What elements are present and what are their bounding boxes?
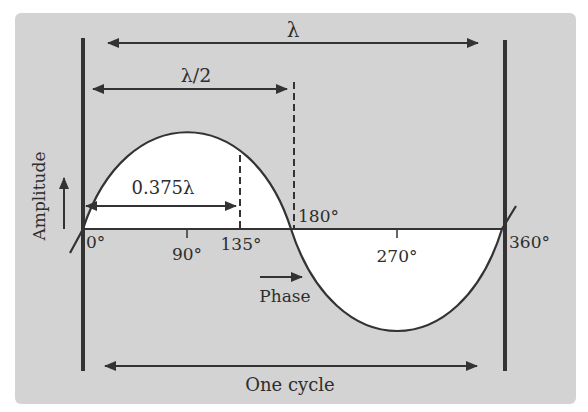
fraction-wavelength-label: 0.375λ [132,177,195,198]
sine-wave-diagram: λ λ/2 0.375λ 0° 90° 135° 180° 270° 360° … [0,0,588,412]
phase-label-90: 90° [172,244,202,264]
phase-label-0: 0° [86,232,105,252]
phase-label-270: 270° [377,246,418,266]
phase-label: Phase [259,286,310,306]
phase-label-360: 360° [509,232,550,252]
one-cycle-label: One cycle [245,374,334,395]
amplitude-label: Amplitude [29,152,49,242]
wavelength-label: λ [287,18,300,42]
phase-label-135: 135° [221,234,262,254]
half-wavelength-label: λ/2 [181,64,212,86]
phase-label-180: 180° [298,206,339,226]
